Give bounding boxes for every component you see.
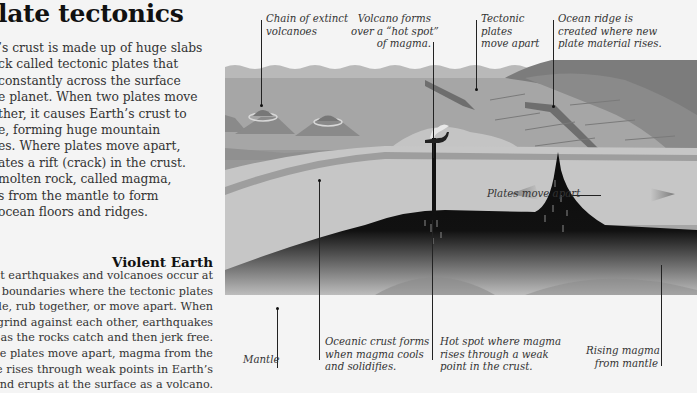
leader-oceanic-crust bbox=[319, 180, 320, 360]
label-hot-spot-volcano: Volcano forms over a “hot spot” of magma… bbox=[351, 13, 431, 51]
label-extinct-volcanoes: Chain of extinct volcanoes bbox=[266, 13, 348, 38]
violent-earth-paragraph: Most earthquakes and volcanoes occur at … bbox=[0, 268, 213, 393]
page-title: late tectonics bbox=[0, 0, 184, 28]
label-mantle: Mantle bbox=[243, 354, 279, 367]
intro-line: constantly across the surface bbox=[0, 73, 228, 89]
section-line: collide, rub together, or move apart. Wh… bbox=[0, 299, 213, 315]
section-line: lates grind against each other, earthqua… bbox=[0, 315, 213, 331]
leader-ocean-ridge bbox=[553, 20, 554, 106]
intro-line: molten rock, called magma, bbox=[0, 171, 228, 187]
label-hot-spot: Hot spot where magma rises through a wea… bbox=[440, 336, 561, 374]
intro-line: es. Where plates move apart, bbox=[0, 138, 228, 154]
intro-line: ther, it causes Earth’s crust to bbox=[0, 106, 228, 122]
leader-extinct-volcanoes bbox=[261, 20, 262, 105]
plate-tectonics-illustration bbox=[225, 60, 697, 295]
intro-line: ates a rift (crack) in the crust. bbox=[0, 155, 228, 171]
pointer-dot bbox=[475, 88, 478, 91]
intro-line: e planet. When two plates move bbox=[0, 89, 228, 105]
label-oceanic-crust: Oceanic crust forms when magma cools and… bbox=[325, 336, 429, 374]
leader-tectonic-plates bbox=[476, 20, 477, 89]
intro-line: e, forming huge mountain bbox=[0, 122, 228, 138]
leader-hot-spot-volcano bbox=[433, 42, 434, 158]
intro-line: ’s crust is made up of huge slabs bbox=[0, 40, 228, 56]
intro-paragraph: ’s crust is made up of huge slabs ck cal… bbox=[0, 40, 228, 220]
leader-rising-magma bbox=[661, 265, 662, 366]
label-ocean-ridge: Ocean ridge is created where new plate m… bbox=[558, 13, 662, 51]
pointer-dot bbox=[552, 105, 555, 108]
section-line: plate boundaries where the tectonic plat… bbox=[0, 284, 213, 300]
section-line: occur as the rocks catch and then jerk f… bbox=[0, 330, 213, 346]
label-plates-move-apart: Plates move apart bbox=[487, 188, 580, 201]
label-rising-magma: Rising magma from mantle bbox=[586, 345, 658, 370]
section-line: mantle rises through weak points in Eart… bbox=[0, 362, 213, 378]
intro-line: ck called tectonic plates that bbox=[0, 56, 228, 72]
leader-hot-spot bbox=[432, 220, 433, 360]
section-line: Most earthquakes and volcanoes occur at bbox=[0, 268, 213, 284]
pointer-dot bbox=[318, 179, 321, 182]
section-line: hen the plates move apart, magma from th… bbox=[0, 346, 213, 362]
pointer-dot bbox=[260, 104, 263, 107]
label-tectonic-plates-move-apart: Tectonic plates move apart bbox=[481, 13, 539, 51]
intro-line: ocean floors and ridges. bbox=[0, 204, 228, 220]
section-line: rust and erupts at the surface as a volc… bbox=[0, 377, 213, 393]
pointer-dot bbox=[276, 307, 279, 310]
intro-line: s from the mantle to form bbox=[0, 188, 228, 204]
